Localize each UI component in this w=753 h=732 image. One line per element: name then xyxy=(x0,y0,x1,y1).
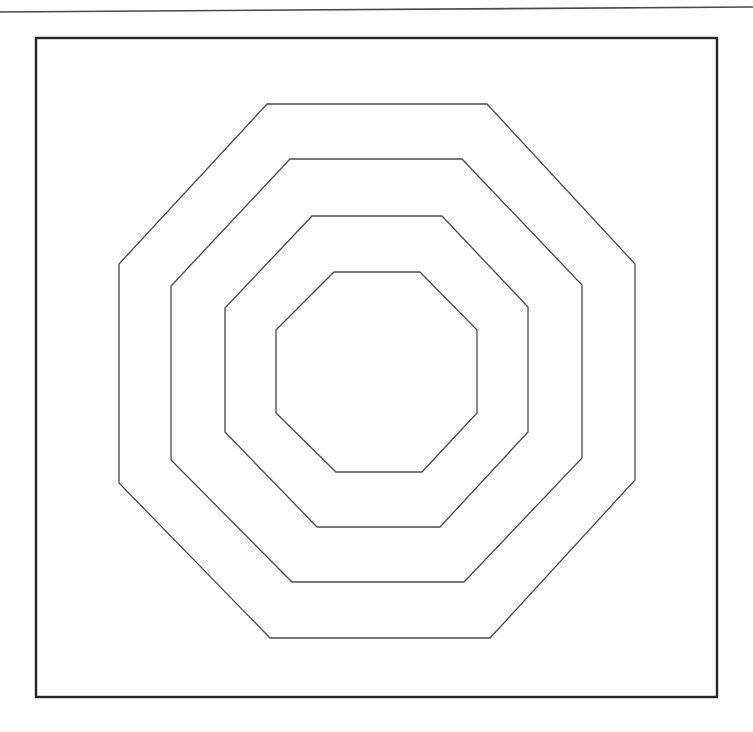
octagon-4-inner xyxy=(276,272,477,472)
octagon-1-outer xyxy=(119,104,635,638)
octagon-group xyxy=(119,104,635,638)
octagon-3 xyxy=(225,216,528,527)
page-top-rule xyxy=(0,7,753,12)
octagon-figure xyxy=(0,0,753,732)
page-root xyxy=(0,0,753,732)
figure-frame xyxy=(36,38,717,697)
octagon-2 xyxy=(171,159,582,582)
